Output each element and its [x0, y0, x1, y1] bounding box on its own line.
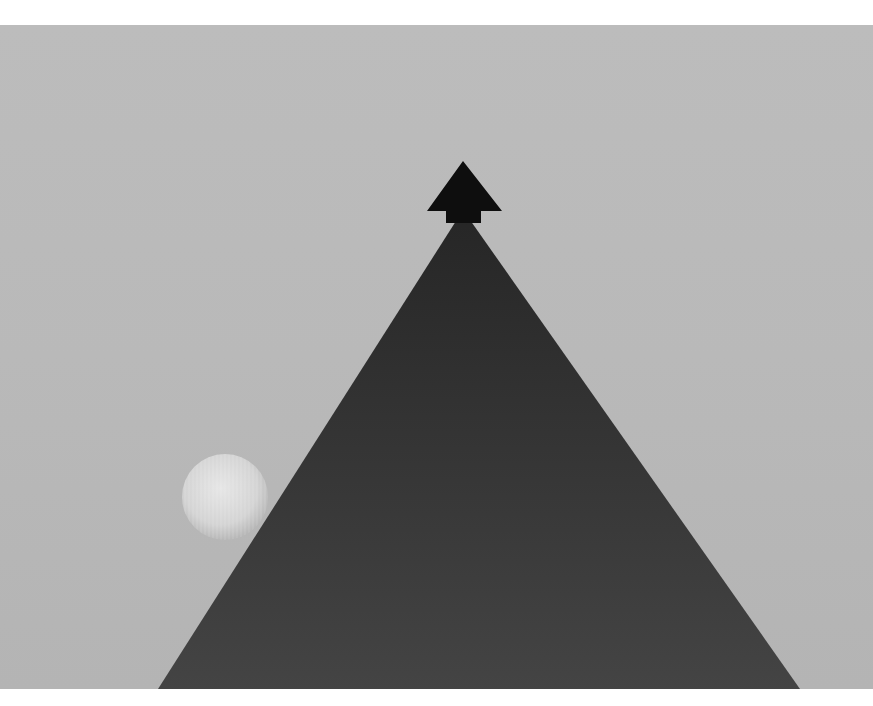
sphere — [182, 454, 268, 540]
scene — [0, 25, 873, 689]
photograph — [0, 25, 873, 689]
pyramid — [158, 210, 800, 689]
arrow-up-icon — [427, 161, 502, 223]
